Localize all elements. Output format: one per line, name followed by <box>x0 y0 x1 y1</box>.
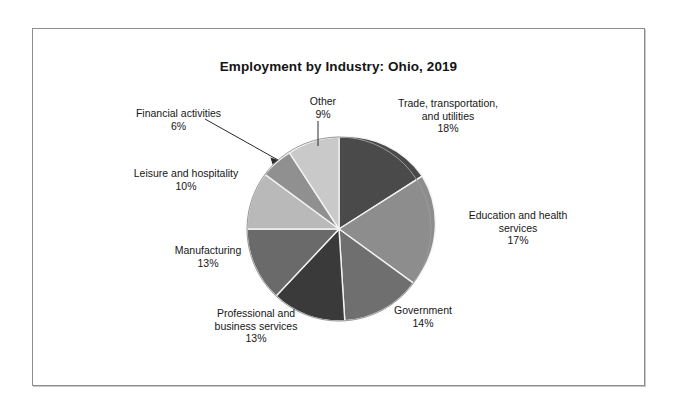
pie-label-line1: Other <box>278 95 368 108</box>
pie-label-financial-activities: Financial activities 6% <box>101 107 256 132</box>
pie-chart-svg <box>33 29 646 387</box>
pie-label-trade-transportation-and-utilities: Trade, transportation, and utilities 18% <box>378 97 518 135</box>
pie-label-line1: Trade, transportation, <box>378 97 518 110</box>
pie-label-percent: 17% <box>443 234 593 247</box>
pie-label-line1: Leisure and hospitality <box>111 167 261 180</box>
chart-frame: Employment by Industry: Ohio, 2019 <box>32 28 645 386</box>
pie-label-line1: Government <box>363 304 483 317</box>
pie-label-line2: business services <box>181 320 331 333</box>
pie-label-line1: Financial activities <box>101 107 256 120</box>
pie-label-line2: and utilities <box>378 110 518 123</box>
pie-label-line1: Manufacturing <box>143 244 273 257</box>
pie-label-manufacturing: Manufacturing 13% <box>143 244 273 269</box>
pie-label-education-and-health-services: Education and health services 17% <box>443 209 593 247</box>
pie-chart-area: Trade, transportation, and utilities 18%… <box>33 29 646 387</box>
pie-label-percent: 14% <box>363 317 483 330</box>
pie-label-percent: 9% <box>278 108 368 121</box>
pie-label-other: Other 9% <box>278 95 368 120</box>
pie-label-percent: 18% <box>378 122 518 135</box>
pie-label-percent: 6% <box>101 120 256 133</box>
pie-label-line1: Education and health <box>443 209 593 222</box>
pie-label-line2: services <box>443 222 593 235</box>
pie-label-percent: 13% <box>143 257 273 270</box>
pie-label-government: Government 14% <box>363 304 483 329</box>
figure-root: Employment by Industry: Ohio, 2019 <box>0 0 682 408</box>
pie-label-professional-and-business-services: Professional and business services 13% <box>181 307 331 345</box>
pie-label-percent: 10% <box>111 180 261 193</box>
pie-label-percent: 13% <box>181 332 331 345</box>
pie-label-leisure-and-hospitality: Leisure and hospitality 10% <box>111 167 261 192</box>
pie-label-line1: Professional and <box>181 307 331 320</box>
